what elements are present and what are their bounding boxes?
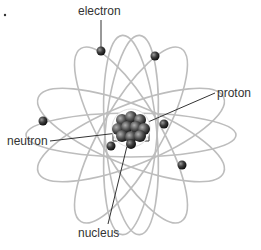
label-nucleus: nucleus — [78, 226, 119, 240]
nucleus — [112, 109, 150, 149]
label-proton: proton — [217, 86, 251, 100]
label-neutron: neutron — [7, 134, 48, 148]
dot — [4, 14, 6, 16]
label-electron: electron — [78, 4, 121, 18]
atom-diagram — [0, 0, 261, 250]
